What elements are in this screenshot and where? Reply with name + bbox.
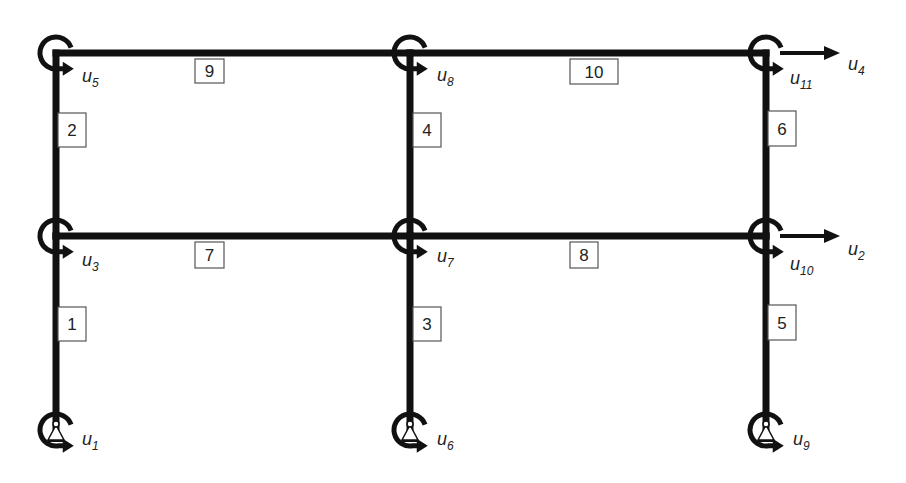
- member-number-label: 7: [205, 246, 214, 265]
- member-number-label: 9: [205, 62, 214, 81]
- member-number-box: 3: [413, 307, 441, 341]
- member-number-label: 1: [67, 315, 76, 334]
- dof-label-u10: u10: [790, 254, 814, 278]
- pin-support-icon: [402, 421, 418, 441]
- frame-diagram: 12345678910 u1u6u9u3u7u10u5u8u11u2u4: [0, 0, 906, 483]
- dof-label-u1: u1: [82, 429, 99, 453]
- member-number-box: 4: [413, 113, 441, 147]
- dof-label-u5: u5: [82, 66, 99, 90]
- dof-label-u4: u4: [848, 54, 865, 78]
- dof-label-u8: u8: [437, 65, 454, 89]
- member-number-box: 9: [195, 59, 224, 83]
- member-number-box: 10: [570, 59, 618, 84]
- member-number-box: 1: [58, 307, 86, 341]
- member-number-box: 7: [195, 242, 224, 268]
- member-number-label: 6: [777, 120, 786, 139]
- translation-dof-arrow-icon: [780, 46, 840, 60]
- dof-label-u11: u11: [790, 68, 812, 92]
- member-number-label: 10: [585, 63, 604, 82]
- dof-label-u2: u2: [848, 239, 865, 263]
- member-number-box: 8: [570, 242, 598, 268]
- dof-arrows-layer: [40, 37, 840, 453]
- member-number-label: 5: [777, 314, 786, 333]
- pin-support-icon: [48, 421, 64, 441]
- supports-layer: [48, 421, 774, 441]
- dof-label-u6: u6: [437, 429, 454, 453]
- pin-support-icon: [758, 421, 774, 441]
- dof-label-u7: u7: [437, 246, 455, 270]
- member-number-label: 4: [422, 121, 431, 140]
- dof-label-u9: u9: [793, 429, 810, 453]
- member-number-boxes: 12345678910: [58, 59, 796, 341]
- member-number-box: 6: [768, 111, 796, 146]
- member-number-box: 2: [58, 113, 86, 147]
- translation-dof-arrow-icon: [780, 229, 840, 243]
- member-number-box: 5: [768, 305, 796, 340]
- members-layer: [56, 53, 766, 430]
- member-number-label: 3: [422, 315, 431, 334]
- member-number-label: 2: [67, 121, 76, 140]
- dof-label-u3: u3: [82, 250, 99, 274]
- member-number-label: 8: [579, 246, 588, 265]
